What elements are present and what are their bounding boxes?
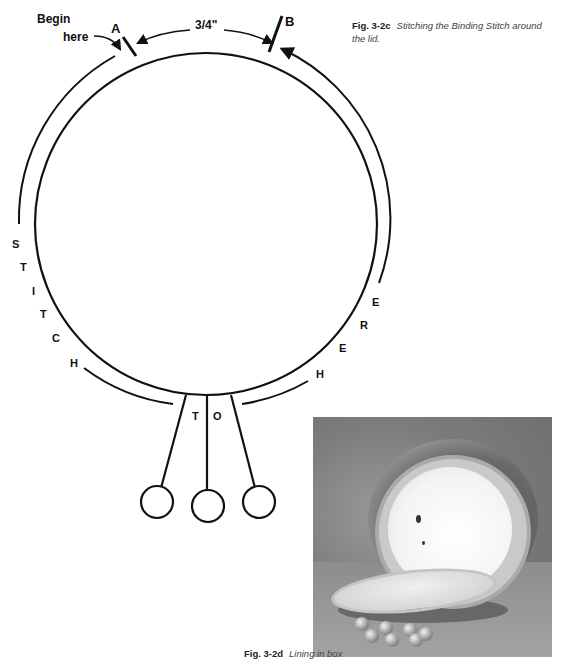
point-a-label: A — [111, 21, 121, 36]
point-b-label: B — [285, 14, 294, 29]
lining-mark — [422, 541, 425, 545]
tassel-bead — [355, 617, 369, 631]
figure-number: Fig. 3-2d — [244, 648, 283, 659]
stitch-path-right-upper — [282, 49, 390, 283]
lined-box-photo — [313, 417, 552, 657]
begin-label-line2: here — [63, 30, 89, 44]
lid-circle — [35, 53, 377, 395]
tassel-strand-left — [161, 395, 186, 488]
right-letter-h: H — [316, 368, 324, 380]
left-letter-t1: T — [20, 261, 27, 273]
lining-mark — [416, 515, 421, 523]
left-letter-i: I — [32, 285, 35, 297]
tassel-bead — [365, 629, 379, 643]
left-letter-h: H — [70, 357, 78, 369]
figure-caption-text: Lining in box — [289, 648, 342, 659]
tick-b — [269, 16, 282, 52]
tick-a — [123, 37, 136, 56]
bottom-letter-t: T — [192, 410, 199, 422]
left-letter-t2: T — [40, 308, 47, 320]
tassel-strand-right — [231, 395, 255, 488]
begin-here-arrow — [94, 36, 120, 49]
tassel-bead-right — [243, 486, 275, 518]
distance-arrow-left — [138, 30, 190, 43]
distance-label: 3/4" — [195, 18, 217, 32]
bottom-letter-o: O — [213, 410, 222, 422]
right-letter-e2: E — [339, 342, 346, 354]
stitch-path-left-lower — [84, 368, 173, 404]
distance-arrow-right — [224, 30, 272, 43]
tassel-bead — [419, 627, 433, 641]
stitch-path-left-upper — [19, 56, 115, 224]
figure-number: Fig. 3-2c — [352, 20, 391, 31]
right-letter-e1: E — [372, 296, 379, 308]
left-letter-c: C — [52, 332, 60, 344]
stitch-path-right-lower — [242, 381, 308, 404]
left-letter-s: S — [12, 238, 19, 250]
tassel-bead — [385, 633, 399, 647]
figure-caption-3-2d: Fig. 3-2dLining in box — [244, 647, 364, 660]
begin-label-line1: Begin — [37, 12, 70, 26]
tassel-bead-left — [141, 486, 173, 518]
tassel-bead-middle — [192, 490, 224, 522]
figure-caption-3-2c: Fig. 3-2cStitching the Binding Stitch ar… — [352, 19, 557, 45]
right-letter-r: R — [360, 319, 368, 331]
